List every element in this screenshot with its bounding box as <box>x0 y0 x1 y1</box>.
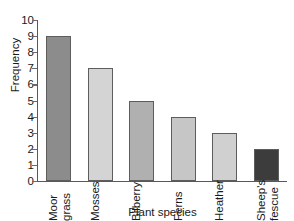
y-tick-label: 8 <box>14 46 34 58</box>
y-tick-label: 6 <box>14 78 34 90</box>
y-tick-mark <box>32 68 37 69</box>
y-tick-label: 9 <box>14 30 34 42</box>
y-tick-mark <box>32 20 37 21</box>
y-tick-mark <box>32 101 37 102</box>
x-tick-mark <box>204 117 205 181</box>
y-tick-mark <box>32 84 37 85</box>
y-tick-mark <box>32 117 37 118</box>
bar-chart: Frequency 109876543210 MoorgrassMossesBi… <box>0 0 294 221</box>
y-tick-label: 10 <box>14 14 34 26</box>
y-tick-mark <box>32 52 37 53</box>
y-tick-label: 5 <box>14 95 34 107</box>
y-tick-label: 0 <box>14 175 34 187</box>
plot-area <box>38 20 287 181</box>
x-tick-mark <box>246 133 247 181</box>
y-tick-mark <box>32 165 37 166</box>
y-tick-label: 4 <box>14 111 34 123</box>
x-tick-mark <box>80 36 81 181</box>
y-tick-label: 2 <box>14 143 34 155</box>
y-tick-label: 1 <box>14 159 34 171</box>
x-axis-title: Plant species <box>38 205 287 219</box>
y-tick-mark <box>32 133 37 134</box>
y-tick-label: 3 <box>14 127 34 139</box>
y-axis-tick-labels: 109876543210 <box>14 14 34 188</box>
y-tick-label: 7 <box>14 62 34 74</box>
y-tick-mark <box>32 181 37 182</box>
y-tick-mark <box>32 149 37 150</box>
x-tick-mark <box>163 101 164 182</box>
y-tick-mark <box>32 36 37 37</box>
x-tick-mark <box>121 68 122 181</box>
